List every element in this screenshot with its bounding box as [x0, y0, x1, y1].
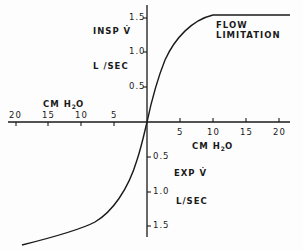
- y-tick-upper-1.0: 1.0: [129, 46, 146, 56]
- x-tick-left-20: 20: [9, 110, 22, 120]
- pressure-flow-chart: 1.5 1.0 0.5 0.5 1.0 1.5 20 15 10 5 5 10 …: [0, 0, 303, 250]
- x-tick-left-5: 5: [111, 110, 117, 120]
- annotation-line-2: LIMITATION: [216, 30, 281, 40]
- insp-flow-label: INSP V̇: [93, 26, 131, 36]
- y-tick-upper-1.5: 1.5: [129, 12, 146, 22]
- x-tick-right-5: 5: [177, 127, 183, 137]
- y-tick-lower-0.5: 0.5: [153, 151, 170, 161]
- x-axis-label-left: CM H2O: [43, 99, 84, 110]
- x-axis-label-right: CM H2O: [192, 141, 233, 152]
- exp-flow-label: EXP V̇: [174, 168, 207, 178]
- exp-unit-label: L/SEC: [176, 196, 208, 206]
- y-tick-lower-1.0: 1.0: [153, 186, 170, 196]
- x-tick-right-10: 10: [207, 127, 220, 137]
- insp-unit-label: L /SEC: [93, 61, 129, 71]
- x-tick-right-20: 20: [273, 127, 286, 137]
- annotation-line-1: FLOW: [216, 20, 281, 30]
- x-tick-right-15: 15: [240, 127, 253, 137]
- x-tick-left-10: 10: [75, 110, 88, 120]
- y-tick-upper-0.5: 0.5: [129, 81, 146, 91]
- y-tick-lower-1.5: 1.5: [153, 220, 170, 230]
- x-tick-left-15: 15: [42, 110, 55, 120]
- flow-limitation-annotation: FLOW LIMITATION: [216, 20, 281, 40]
